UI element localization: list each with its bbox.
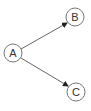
node-a-label: A — [9, 47, 17, 59]
node-b-label: B — [71, 11, 78, 23]
graph-canvas: A B C — [0, 0, 91, 111]
edge-a-to-c — [21, 58, 68, 86]
node-a: A — [4, 44, 22, 62]
node-b: B — [66, 8, 84, 26]
node-c: C — [67, 83, 85, 101]
node-c-label: C — [72, 86, 80, 98]
edge-a-to-b — [21, 23, 67, 49]
